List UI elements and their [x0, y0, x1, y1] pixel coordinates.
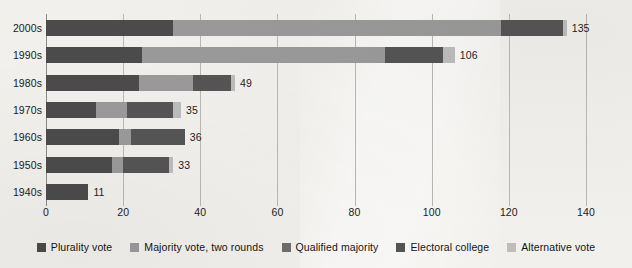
- legend-swatch-icon: [507, 243, 516, 252]
- x-axis-tick-label: 60: [271, 206, 283, 218]
- stacked-bar: [46, 20, 567, 36]
- legend-label: Majority vote, two rounds: [144, 241, 263, 253]
- x-axis-tick-label: 20: [117, 206, 129, 218]
- bar-segment: [123, 157, 169, 173]
- legend-label: Qualified majority: [296, 241, 379, 253]
- legend-label: Electoral college: [410, 241, 489, 253]
- y-axis-label: 2000s: [13, 20, 42, 36]
- bar-segment: [46, 157, 112, 173]
- bar-segment: [131, 129, 185, 145]
- bar-segment: [46, 129, 119, 145]
- stacked-bar: [46, 75, 235, 91]
- y-axis-labels: 2000s1990s1980s1970s1960s1950s1940s: [0, 14, 42, 206]
- bar-segment: [501, 20, 563, 36]
- y-axis-label: 1950s: [13, 157, 42, 173]
- bar-segment: [193, 75, 232, 91]
- bar-segment: [169, 157, 173, 173]
- stacked-bar: [46, 157, 173, 173]
- y-axis-label: 1960s: [13, 129, 42, 145]
- x-axis-tick-label: 100: [423, 206, 441, 218]
- bar-segment: [96, 102, 127, 118]
- bar-segment: [119, 129, 131, 145]
- bar-total-label: 36: [190, 129, 202, 145]
- stacked-bar: [46, 47, 455, 63]
- bar-segment: [46, 47, 142, 63]
- stacked-bar: [46, 102, 181, 118]
- y-axis-label: 1990s: [13, 47, 42, 63]
- x-axis-tick-label: 0: [43, 206, 49, 218]
- bar-row: 135: [46, 20, 586, 36]
- legend-swatch-icon: [130, 243, 139, 252]
- bar-segment: [46, 20, 173, 36]
- bar-segment: [139, 75, 193, 91]
- bar-row: 33: [46, 157, 586, 173]
- y-axis-label: 1940s: [13, 184, 42, 200]
- bar-row: 36: [46, 129, 586, 145]
- y-axis-label: 1970s: [13, 102, 42, 118]
- bar-segment: [46, 75, 139, 91]
- bar-segment: [46, 102, 96, 118]
- legend-swatch-icon: [37, 243, 46, 252]
- bar-segment: [173, 102, 181, 118]
- bar-row: 35: [46, 102, 586, 118]
- stacked-bar: [46, 184, 88, 200]
- legend-item: Alternative vote: [507, 241, 595, 253]
- x-axis-tick-labels: 020406080100120140: [46, 206, 586, 224]
- x-axis-tick-label: 80: [349, 206, 361, 218]
- bar-segment: [443, 47, 455, 63]
- bar-total-label: 106: [460, 47, 478, 63]
- bar-segment: [127, 102, 173, 118]
- bar-segment: [46, 184, 88, 200]
- x-axis-tick-label: 40: [194, 206, 206, 218]
- bar-segment: [385, 47, 443, 63]
- legend-label: Alternative vote: [521, 241, 595, 253]
- x-axis-tick-label: 120: [500, 206, 518, 218]
- bar-segment: [563, 20, 567, 36]
- bar-row: 49: [46, 75, 586, 91]
- legend-swatch-icon: [396, 243, 405, 252]
- x-axis-tick-label: 140: [577, 206, 595, 218]
- bar-segment: [112, 157, 124, 173]
- bar-total-label: 11: [93, 184, 104, 200]
- bar-row: 106: [46, 47, 586, 63]
- stacked-bar-chart: 2000s1990s1980s1970s1960s1950s1940s 1351…: [0, 0, 632, 268]
- legend-item: Qualified majority: [282, 241, 379, 253]
- chart-legend: Plurality voteMajority vote, two roundsQ…: [0, 236, 632, 258]
- legend-item: Electoral college: [396, 241, 489, 253]
- bar-total-label: 35: [186, 102, 198, 118]
- bar-total-label: 33: [178, 157, 190, 173]
- legend-item: Plurality vote: [37, 241, 113, 253]
- bar-row: 11: [46, 184, 586, 200]
- bar-segment: [173, 20, 501, 36]
- bar-total-label: 135: [572, 20, 590, 36]
- bar-rows: 1351064935363311: [46, 14, 586, 206]
- y-axis-label: 1980s: [13, 75, 42, 91]
- legend-swatch-icon: [282, 243, 291, 252]
- bar-segment: [231, 75, 235, 91]
- legend-label: Plurality vote: [51, 241, 113, 253]
- bar-total-label: 49: [240, 75, 252, 91]
- gridline-140: [586, 14, 587, 206]
- stacked-bar: [46, 129, 185, 145]
- bar-segment: [142, 47, 385, 63]
- plot-area: 1351064935363311: [46, 14, 586, 206]
- legend-item: Majority vote, two rounds: [130, 241, 263, 253]
